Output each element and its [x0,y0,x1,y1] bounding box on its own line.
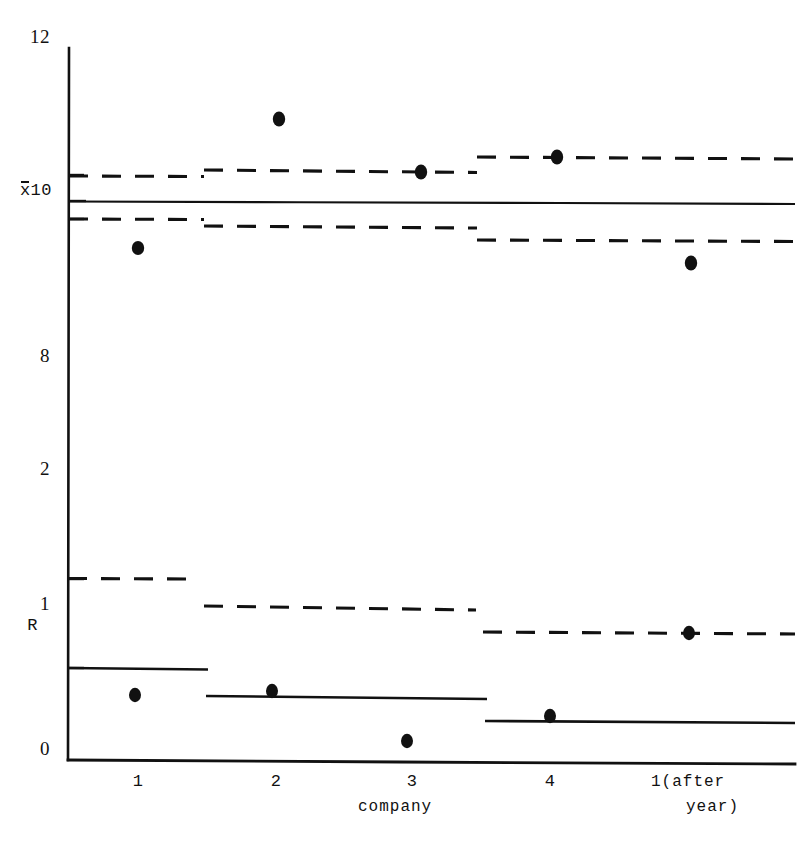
chart-canvas [0,0,803,846]
xbar-ucl-segment-3 [477,157,795,159]
x-tick-label-1: 1 [108,772,168,791]
xbar-ucl-segment-2 [204,170,477,173]
r-data-point [266,684,278,698]
r-data-point [401,734,413,748]
r-data-point [129,688,141,702]
y-tick-label-xbar10: x10 [0,181,52,200]
y-axis-tick-marks [68,175,86,668]
y-tick-label-0: 0 [0,738,50,760]
x-bar-letter: x [20,181,31,200]
x-tick-label-after-year-line1: 1(after [651,773,725,791]
xbar-data-point [415,165,427,180]
x-tick-label-after-year-line2: year) [686,798,739,816]
y-tick-label-1: 1 [0,593,50,615]
x-axis-caption: company [358,798,432,816]
xbar-lcl-segment-1 [69,219,204,220]
xbar-data-point [685,256,697,271]
r-center-segment-1 [68,668,208,670]
overbar [21,181,29,183]
r-ucl-segment-2 [204,606,476,610]
x-tick-label-3: 3 [382,772,442,791]
r-ucl-segment-1 [68,579,197,580]
y-tick-label-R: R [0,616,38,635]
xbar-lcl-segment-3 [477,240,795,242]
x-tick-label-2: 2 [246,772,306,791]
xbar-lcl-segment-2 [204,226,477,228]
x-axis-line [68,760,795,764]
xbar-data-point [132,241,144,255]
x-tick-label-4: 4 [520,772,580,791]
xbar-data-point [273,112,285,127]
xbar-center-line [69,202,795,205]
xbar-panel [69,112,795,271]
r-data-point [544,709,556,723]
r-center-segment-2 [206,696,487,699]
y-tick-label-8: 8 [0,345,50,367]
xbar-ucl-segment-1 [69,176,204,177]
y-tick-label-2: 2 [0,458,50,480]
xbar-data-point [551,150,563,165]
r-data-point [683,626,695,640]
r-center-segment-3 [485,721,795,723]
r-ucl-segment-3 [483,632,795,634]
y-axis-line [68,48,69,760]
axis-lines [68,48,795,764]
y-tick-label-12: 12 [0,26,50,48]
x-bar-glyph: x [20,181,31,200]
y-tick-label-xbar-number: 10 [31,181,52,200]
control-chart-figure: 12 x10 8 2 1 R 0 1 2 3 4 1(after year) c… [0,0,803,846]
r-panel [68,579,795,749]
